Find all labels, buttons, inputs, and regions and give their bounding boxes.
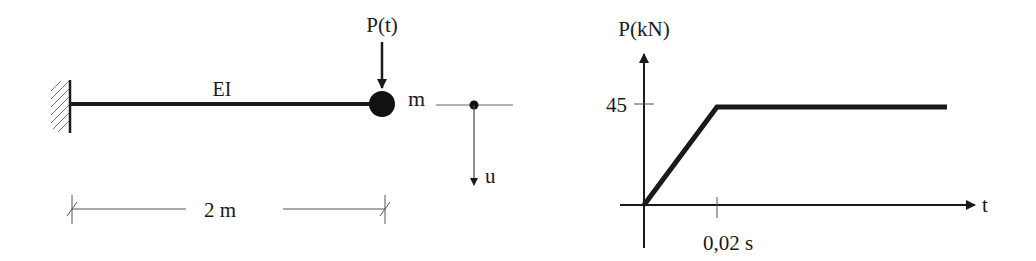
displacement-label: u xyxy=(485,164,496,188)
x-axis-label: t xyxy=(982,193,988,217)
fixed-support xyxy=(51,80,70,133)
y-axis-label: P(kN) xyxy=(618,17,669,41)
diagram-canvas: EI m P(t) u 2 m P(kN) t 45 0,02 s xyxy=(0,0,1036,261)
x-tick-label: 0,02 s xyxy=(703,231,753,255)
load-chart xyxy=(620,54,975,248)
length-label: 2 m xyxy=(204,198,236,222)
mass-label: m xyxy=(408,86,425,111)
load-label: P(t) xyxy=(366,13,398,37)
y-tick-label: 45 xyxy=(606,93,627,117)
stiffness-label: EI xyxy=(213,78,232,100)
load-curve xyxy=(644,107,947,205)
displacement-indicator xyxy=(436,101,513,186)
point-mass xyxy=(369,91,395,117)
